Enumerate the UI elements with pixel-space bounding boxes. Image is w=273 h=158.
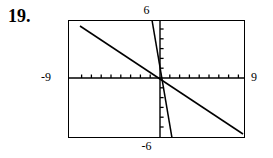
- x-min-label: -9: [41, 70, 51, 84]
- calculator-graph-figure: 6 -6 -9 9: [0, 0, 273, 158]
- y-min-label: -6: [0, 139, 273, 153]
- x-max-label: 9: [251, 70, 257, 84]
- graph-plot-area: [68, 20, 245, 138]
- steep-line-plot: [152, 20, 172, 138]
- y-max-label: 6: [0, 3, 273, 17]
- figure-page: 19.: [0, 0, 273, 158]
